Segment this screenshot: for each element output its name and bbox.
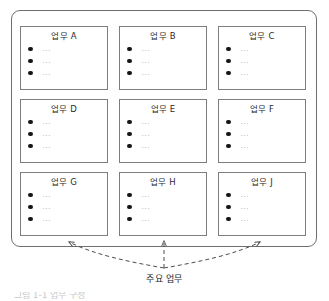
list-item: ...: [219, 116, 305, 128]
card-item-list: ... ... ...: [219, 116, 305, 152]
bullet-icon: [226, 47, 231, 52]
figure-caption-fragment: 그림 1-1 업무 구성: [14, 292, 134, 301]
list-item-text: ...: [43, 58, 51, 65]
list-item: ...: [21, 140, 107, 152]
bullet-icon: [127, 217, 132, 222]
card-업무-j[interactable]: 업무 J ... ... ...: [218, 172, 306, 236]
list-item: ...: [21, 189, 107, 201]
card-title: 업무 G: [21, 177, 107, 187]
bullet-icon: [28, 205, 33, 210]
bullet-icon: [28, 71, 33, 76]
list-item: ...: [21, 201, 107, 213]
list-item-text: ...: [142, 46, 150, 53]
bullet-icon: [226, 71, 231, 76]
list-item-text: ...: [241, 131, 249, 138]
card-title: 업무 A: [21, 31, 107, 41]
bullet-icon: [127, 120, 132, 125]
bullet-icon: [28, 144, 33, 149]
list-item: ...: [120, 43, 206, 55]
bullet-icon: [127, 47, 132, 52]
list-item: ...: [21, 67, 107, 79]
list-item-text: ...: [43, 70, 51, 77]
bullet-icon: [28, 47, 33, 52]
list-item-text: ...: [241, 70, 249, 77]
bullet-icon: [127, 144, 132, 149]
figure-caption-text: 그림 1-1 업무 구성: [14, 292, 134, 300]
card-업무-h[interactable]: 업무 H ... ... ...: [119, 172, 207, 236]
list-item: ...: [21, 128, 107, 140]
list-item: ...: [120, 67, 206, 79]
list-item-text: ...: [241, 46, 249, 53]
card-title: 업무 B: [120, 31, 206, 41]
card-title: 업무 H: [120, 177, 206, 187]
list-item: ...: [219, 189, 305, 201]
card-업무-e[interactable]: 업무 E ... ... ...: [119, 99, 207, 163]
list-item: ...: [219, 43, 305, 55]
bullet-icon: [127, 59, 132, 64]
card-item-list: ... ... ...: [120, 43, 206, 79]
card-item-list: ... ... ...: [219, 43, 305, 79]
bullet-icon: [127, 193, 132, 198]
bullet-icon: [226, 59, 231, 64]
card-업무-c[interactable]: 업무 C ... ... ...: [218, 26, 306, 90]
list-item-text: ...: [241, 119, 249, 126]
bullet-icon: [226, 144, 231, 149]
list-item: ...: [219, 55, 305, 67]
list-item-text: ...: [241, 58, 249, 65]
bullet-icon: [28, 193, 33, 198]
bullet-icon: [226, 132, 231, 137]
list-item-text: ...: [142, 204, 150, 211]
card-업무-b[interactable]: 업무 B ... ... ...: [119, 26, 207, 90]
list-item-text: ...: [43, 46, 51, 53]
diagram-root: 업무 A ... ... ... 업무 B: [0, 0, 329, 301]
list-item: ...: [120, 128, 206, 140]
bullet-icon: [28, 132, 33, 137]
card-업무-d[interactable]: 업무 D ... ... ...: [20, 99, 108, 163]
list-item: ...: [120, 116, 206, 128]
list-item-text: ...: [142, 131, 150, 138]
bullet-icon: [28, 217, 33, 222]
card-업무-a[interactable]: 업무 A ... ... ...: [20, 26, 108, 90]
list-item-text: ...: [142, 216, 150, 223]
card-title: 업무 J: [219, 177, 305, 187]
list-item: ...: [21, 116, 107, 128]
list-item-text: ...: [43, 119, 51, 126]
card-title: 업무 F: [219, 104, 305, 114]
card-title: 업무 E: [120, 104, 206, 114]
list-item: ...: [21, 213, 107, 225]
list-item: ...: [219, 201, 305, 213]
list-item-text: ...: [241, 204, 249, 211]
list-item-text: ...: [241, 216, 249, 223]
list-item-text: ...: [142, 192, 150, 199]
list-item-text: ...: [142, 143, 150, 150]
list-item-text: ...: [241, 143, 249, 150]
card-item-list: ... ... ...: [21, 189, 107, 225]
list-item: ...: [120, 189, 206, 201]
list-item-text: ...: [43, 204, 51, 211]
card-업무-f[interactable]: 업무 F ... ... ...: [218, 99, 306, 163]
bullet-icon: [226, 217, 231, 222]
list-item-text: ...: [241, 192, 249, 199]
card-item-list: ... ... ...: [120, 116, 206, 152]
card-item-list: ... ... ...: [21, 116, 107, 152]
bullet-icon: [226, 120, 231, 125]
list-item-text: ...: [43, 131, 51, 138]
list-item: ...: [120, 140, 206, 152]
list-item: ...: [120, 55, 206, 67]
list-item: ...: [120, 201, 206, 213]
list-item: ...: [219, 128, 305, 140]
card-title: 업무 C: [219, 31, 305, 41]
list-item-text: ...: [43, 192, 51, 199]
bullet-icon: [226, 205, 231, 210]
card-업무-g[interactable]: 업무 G ... ... ...: [20, 172, 108, 236]
list-item: ...: [219, 140, 305, 152]
list-item-text: ...: [142, 70, 150, 77]
list-item: ...: [219, 213, 305, 225]
bullet-icon: [28, 59, 33, 64]
list-item-text: ...: [43, 216, 51, 223]
card-grid: 업무 A ... ... ... 업무 B: [20, 26, 310, 238]
bullet-icon: [127, 205, 132, 210]
card-item-list: ... ... ...: [219, 189, 305, 225]
list-item: ...: [21, 43, 107, 55]
list-item-text: ...: [142, 119, 150, 126]
